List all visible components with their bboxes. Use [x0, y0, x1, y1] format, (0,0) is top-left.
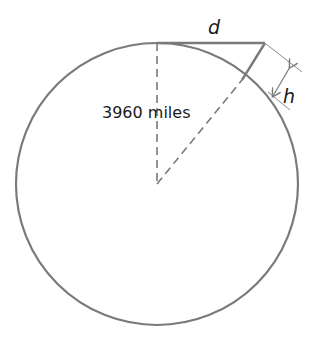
distance-label: d: [208, 16, 221, 38]
earth-diagram: d h 3960 miles: [0, 0, 317, 341]
extension-line-top: [266, 44, 302, 72]
height-label: h: [283, 85, 295, 107]
height-segment: [242, 43, 265, 80]
radius-line-diagonal: [157, 80, 242, 184]
radius-label: 3960 miles: [102, 103, 190, 122]
